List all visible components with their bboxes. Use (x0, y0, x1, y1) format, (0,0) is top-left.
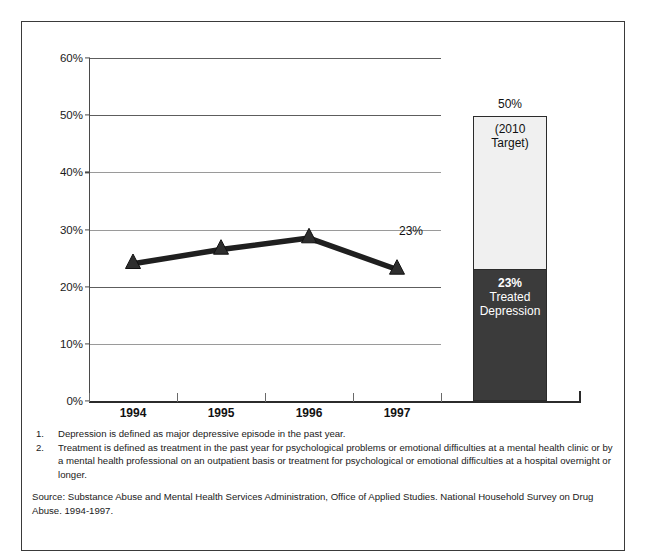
xtick-label-1996: 1996 (296, 406, 323, 420)
bar-target-line-1: (2010 (474, 122, 546, 136)
series-line-treated-depression (89, 58, 441, 401)
bar-treated-line-2: Depression (474, 304, 546, 318)
xtick-mark-2 (265, 393, 266, 402)
footnotes: 1. Depression is defined as major depres… (32, 427, 616, 481)
bar-treated-pct: 23% (474, 276, 546, 290)
series-polyline (133, 238, 397, 269)
bar-treated-line-1: Treated (474, 290, 546, 304)
source-note: Source: Substance Abuse and Mental Healt… (32, 490, 616, 517)
xtick-mark-4 (441, 393, 442, 402)
footnote-1-text: Depression is defined as major depressiv… (58, 427, 616, 441)
xtick-label-1995: 1995 (208, 406, 235, 420)
x-axis-endcap (579, 391, 581, 403)
marker-1996 (302, 228, 317, 243)
xtick-mark-1 (177, 393, 178, 402)
ytick-label-40: 40% (60, 166, 83, 178)
footnote-2-text: Treatment is defined as treatment in the… (58, 441, 616, 482)
ytick-label-10: 10% (60, 338, 83, 350)
bar-total-label: 50% (473, 97, 547, 111)
ytick-label-60: 60% (60, 52, 83, 64)
ytick-label-50: 50% (60, 109, 83, 121)
ytick-label-30: 30% (60, 224, 83, 236)
footnote-2: 2. Treatment is defined as treatment in … (32, 441, 616, 482)
xtick-mark-0 (89, 393, 90, 402)
xtick-mark-3 (353, 393, 354, 402)
data-label-1997: 23% (399, 224, 423, 238)
ytick-label-20: 20% (60, 281, 83, 293)
xtick-label-1997: 1997 (384, 406, 411, 420)
chart-area: 60% 50% 40% 30% 20% 10% 0% (22, 22, 626, 417)
bar-stack: (2010 Target) 23% Treated Depression (473, 116, 547, 401)
footnote-1-number: 1. (32, 427, 58, 441)
figure-frame: 60% 50% 40% 30% 20% 10% 0% (21, 21, 625, 551)
footnote-2-number: 2. (32, 441, 58, 455)
x-axis-baseline (89, 401, 581, 403)
ytick-label-0: 0% (66, 395, 83, 407)
footnote-1: 1. Depression is defined as major depres… (32, 427, 616, 441)
bar-segment-target: (2010 Target) (473, 116, 547, 270)
bar-target-line-2: Target) (474, 136, 546, 150)
bar-segment-treated: 23% Treated Depression (473, 269, 547, 401)
xtick-label-1994: 1994 (120, 406, 147, 420)
